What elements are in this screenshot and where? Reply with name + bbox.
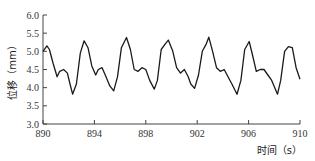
y-axis-title: 位移（mm） (6, 40, 18, 99)
y-tick-label: 5.0 (27, 46, 40, 57)
x-tick-label: 906 (241, 128, 256, 139)
y-tick-label: 3.5 (27, 100, 40, 111)
x-axis: 890894898902906910 (36, 120, 308, 139)
y-tick-label: 5.5 (27, 28, 40, 39)
displacement-line (43, 37, 300, 94)
y-tick-label: 6.0 (27, 10, 40, 21)
y-tick-label: 4.5 (27, 64, 40, 75)
x-tick-label: 910 (293, 128, 308, 139)
x-axis-title: 时间（s） (257, 144, 302, 156)
line-chart: 3.03.54.04.55.05.56.0 890894898902906910… (0, 0, 315, 161)
y-tick-label: 4.0 (27, 82, 40, 93)
x-tick-label: 898 (138, 128, 153, 139)
x-tick-label: 902 (190, 128, 205, 139)
x-tick-label: 890 (36, 128, 51, 139)
y-axis: 3.03.54.04.55.05.56.0 (27, 10, 48, 130)
x-tick-label: 894 (87, 128, 102, 139)
